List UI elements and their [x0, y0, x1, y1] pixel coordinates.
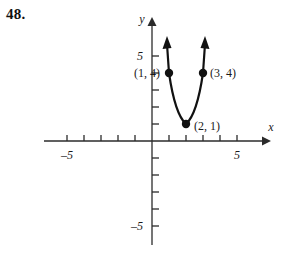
point-label-1-4: (1, 4) [134, 66, 160, 80]
point-dot-2-1 [182, 120, 190, 128]
x-axis-label: x [267, 120, 274, 134]
point-dot-1-4 [165, 69, 173, 77]
parabola-curve [169, 73, 203, 124]
point-label-3-4: (3, 4) [210, 66, 236, 80]
parabola-right-arrow-icon [201, 36, 210, 49]
x-tick-label-negative-5: –5 [60, 148, 73, 162]
coordinate-graph: x y –5 5 5 –5 (1, 4) (3, 4) (2, 1) [0, 0, 289, 262]
y-axis-arrow-icon [148, 17, 157, 26]
point-dot-3-4 [199, 69, 207, 77]
y-tick-label-5: 5 [137, 49, 143, 63]
y-axis-label: y [138, 12, 145, 26]
x-axis-arrow-icon [262, 137, 271, 146]
x-tick-label-5: 5 [234, 148, 240, 162]
point-label-2-1: (2, 1) [194, 119, 220, 133]
y-tick-label-negative-5: –5 [130, 219, 143, 233]
figure-page: 48. [0, 0, 289, 262]
parabola-left-arrow-icon [163, 36, 172, 49]
